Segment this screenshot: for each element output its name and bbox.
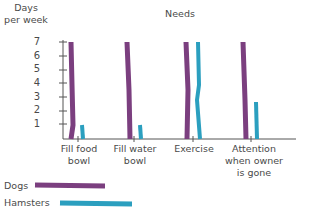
legend-dogs-swatch	[35, 185, 105, 186]
hamsters-bars	[82, 42, 257, 139]
chart-plot	[0, 0, 312, 211]
category-label-food: Fill food bowl	[55, 143, 103, 167]
category-label-water: Fill water bowl	[110, 143, 160, 167]
axes	[59, 40, 296, 142]
dogs-bars	[71, 42, 246, 139]
legend-hamsters-swatch	[60, 203, 132, 204]
cat0-line1: Fill food	[55, 143, 103, 155]
category-label-exercise: Exercise	[172, 143, 216, 155]
cat2-line1: Exercise	[172, 143, 216, 155]
cat1-line1: Fill water	[110, 143, 160, 155]
category-label-attention: Attention when owner is gone	[224, 143, 284, 179]
cat1-line2: bowl	[110, 155, 160, 167]
cat3-line3: is gone	[224, 167, 284, 179]
cat0-line2: bowl	[55, 155, 103, 167]
cat3-line1: Attention	[224, 143, 284, 155]
legend-dogs-label: Dogs	[4, 180, 28, 192]
cat3-line2: when owner	[224, 155, 284, 167]
legend-hamsters-label: Hamsters	[4, 197, 50, 209]
